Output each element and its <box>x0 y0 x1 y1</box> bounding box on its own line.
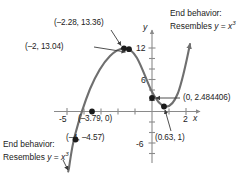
end-behavior-top-line1: End behavior: <box>170 8 236 19</box>
x-axis <box>54 108 200 115</box>
end-behavior-bottom-eq-mid: = <box>51 152 61 162</box>
x-axis-label: x <box>193 113 197 123</box>
end-behavior-bottom-prefix: Resembles <box>3 152 47 162</box>
ytick-label-6: 6 <box>141 75 146 85</box>
xtick-label-2: 2 <box>183 114 188 124</box>
label-y-intercept: (0, 2.484406) <box>183 93 230 103</box>
end-behavior-bottom-line2: Resembles y = x3 <box>3 150 69 163</box>
end-behavior-bottom-eq-exp: 3 <box>65 150 68 157</box>
label-point-x-neg4: (–4, –4.57) <box>66 133 105 143</box>
point-local-min <box>161 104 167 110</box>
end-behavior-note-bottom: End behavior: Resembles y = x3 <box>3 139 69 163</box>
ytick-label-neg6: -6 <box>136 139 144 149</box>
leader-end-behavior-top <box>191 38 196 44</box>
label-x-intercept: (–3.79, 0) <box>78 114 112 124</box>
end-behavior-bottom-line1: End behavior: <box>3 139 69 150</box>
ytick-label-12: 12 <box>136 43 146 53</box>
point-local-max <box>121 45 127 51</box>
end-behavior-top-line2: Resembles y = x3 <box>170 19 236 32</box>
end-behavior-top-eq-exp: 3 <box>232 19 235 26</box>
point-y-intercept <box>149 95 155 101</box>
label-local-min: (0.63, 1) <box>155 133 185 143</box>
xtick-label-neg5: -5 <box>59 114 67 124</box>
leader-local-max <box>111 30 121 46</box>
y-axis-label: y <box>143 22 147 32</box>
point-x-neg2 <box>126 46 132 52</box>
graph-figure: (–2.28, 13.36) (–2, 13.04) (–3.79, 0) (–… <box>0 0 247 174</box>
end-behavior-top-prefix: Resembles <box>170 21 214 31</box>
cubic-curve <box>68 44 190 172</box>
leader-local-min <box>165 110 171 131</box>
end-behavior-note-top: End behavior: Resembles y = x3 <box>170 8 236 32</box>
label-point-x-neg2: (–2, 13.04) <box>25 42 64 52</box>
label-local-max: (–2.28, 13.36) <box>54 18 104 28</box>
end-behavior-top-eq-mid: = <box>218 21 228 31</box>
